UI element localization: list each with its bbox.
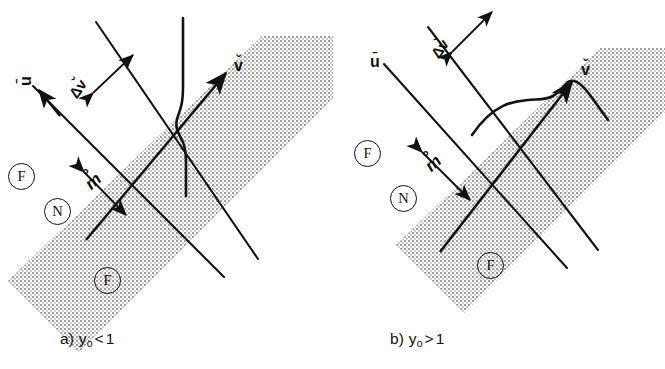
delta-v-arrow-a [93,55,133,93]
region-label-f-left-b: F [354,140,381,167]
caption-b-symbol: y [409,330,417,347]
shear-band-a [8,36,333,352]
caption-a-relation: < [93,330,106,347]
u-vector-label-b: ˉu [370,54,380,70]
u-vector-arrow-a [39,90,60,116]
caption-b: b) yo>1 [390,330,445,349]
caption-a-subscript: o [87,337,93,349]
delta-v-arrow-b [452,12,492,52]
figure-root: ˉu ˇΔv ˇv °m F N F a) yo<1 [0,0,665,369]
caption-a: a) yo<1 [60,330,115,349]
caption-b-subscript: o [417,337,423,349]
caption-b-relation: > [423,330,436,347]
region-label-f-bottom-a: F [94,267,121,294]
panel-b-graphic [332,0,665,369]
region-label-f-left-a: F [8,163,35,190]
caption-a-symbol: y [79,330,87,347]
panel-a: ˉu ˇΔv ˇv °m F N F a) yo<1 [0,0,333,369]
shear-band-b [396,48,665,313]
u-vector-label-a: ˉu [18,76,34,86]
region-label-f-bottom-b: F [477,252,504,279]
caption-b-value: 1 [436,330,445,347]
v-vector-label-a: ˇv [234,58,243,74]
panel-b: ˉu ˇΔv ˇv °m F N F b) yo>1 [332,0,665,369]
caption-a-value: 1 [106,330,115,347]
caption-a-prefix: a) [60,330,74,347]
caption-b-prefix: b) [390,330,404,347]
panel-a-graphic [0,0,333,369]
region-label-n-b: N [390,185,417,212]
v-vector-label-b: ˇv [581,62,590,78]
region-label-n-a: N [44,198,71,225]
